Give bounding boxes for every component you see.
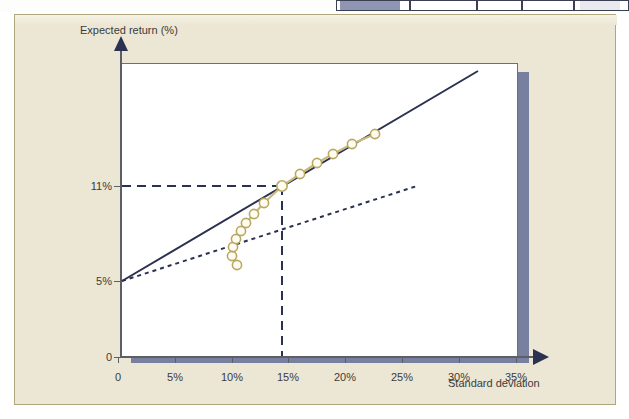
y-tick-mark — [114, 281, 121, 282]
x-axis-arrow-icon — [533, 349, 549, 365]
y-axis-arrow-icon — [114, 36, 128, 51]
x-tick-label: 15% — [277, 371, 299, 383]
y-tick-label: 11% — [74, 180, 112, 192]
x-tick-label: 20% — [334, 371, 356, 383]
y-tick-mark — [114, 357, 121, 358]
scan-artifact-cell — [619, 0, 629, 11]
x-tick-mark — [232, 357, 233, 363]
x-tick-label: 0 — [115, 371, 121, 383]
y-tick-label: 5% — [78, 275, 112, 287]
plot-shadow-right — [518, 72, 529, 363]
y-axis-line — [120, 48, 122, 358]
scan-artifact-color-chip — [340, 1, 400, 10]
x-tick-label: 5% — [167, 371, 183, 383]
scan-artifact-strip — [0, 0, 629, 12]
x-tick-mark — [175, 357, 176, 363]
scan-artifact-cell — [522, 0, 574, 11]
x-tick-mark — [459, 357, 460, 363]
x-tick-mark — [288, 357, 289, 363]
scan-artifact-color-chip — [580, 1, 620, 10]
y-tick-mark — [114, 186, 121, 187]
y-tick-label: 0 — [86, 351, 112, 363]
x-tick-label: 25% — [391, 371, 413, 383]
x-tick-label: 30% — [448, 371, 470, 383]
plot-area — [122, 63, 518, 357]
x-tick-label: 10% — [221, 371, 243, 383]
x-tick-mark — [516, 357, 517, 363]
x-tick-label: 35% — [505, 371, 527, 383]
scan-artifact-cell — [410, 0, 477, 11]
y-axis-title: Expected return (%) — [80, 24, 178, 36]
scan-artifact-cell — [477, 0, 522, 11]
x-tick-mark — [345, 357, 346, 363]
x-axis-line — [120, 356, 535, 358]
x-tick-mark — [402, 357, 403, 363]
